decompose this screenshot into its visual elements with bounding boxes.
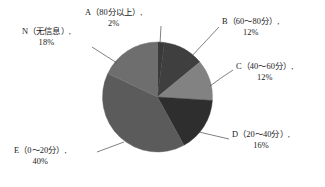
leader-line-d [199,132,229,139]
pie-label-b: B（60～80分）, 12% [222,17,279,38]
pie-label-a-percent: 2% [85,19,142,30]
pie-label-b-percent: 12% [222,28,279,39]
pie-label-a: A（80分以上）, 2% [85,8,142,29]
leader-line-b [190,27,219,58]
pie-label-n: N（无信息）, 18% [22,27,71,48]
pie-label-e-percent: 40% [14,157,67,168]
pie-slice-group [102,42,212,152]
leader-line-a [160,26,161,44]
pie-label-e-name: E（0～20分）, [14,146,67,155]
pie-label-e: E（0～20分）, 40% [14,146,67,167]
leader-line-e [97,142,124,152]
leader-line-c [210,70,233,86]
pie-label-n-percent: 18% [22,38,71,49]
pie-label-d-percent: 16% [232,141,290,152]
pie-label-a-name: A（80分以上）, [85,8,142,17]
pie-label-n-name: N（无信息）, [22,27,71,36]
pie-label-d-name: D（20～40分）, [232,130,290,139]
pie-label-b-name: B（60～80分）, [222,17,279,26]
pie-label-c-name: C（40～60分）, [236,62,293,71]
pie-label-c-percent: 12% [236,73,293,84]
pie-chart: A（80分以上）, 2% B（60～80分）, 12% C（40～60分）, 1… [0,0,325,187]
pie-label-d: D（20～40分）, 16% [232,130,290,151]
leader-line-n [92,47,117,63]
pie-label-c: C（40～60分）, 12% [236,62,293,83]
